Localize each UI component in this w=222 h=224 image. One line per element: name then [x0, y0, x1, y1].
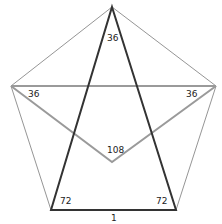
center-angle-label: 108	[107, 145, 124, 155]
left-angle-label: 36	[28, 89, 40, 99]
pentagon-diagram: 36 36 36 108 72 72 1	[0, 0, 222, 224]
base-length-label: 1	[111, 213, 117, 223]
bottom-left-angle-label: 72	[60, 196, 71, 206]
right-angle-label: 36	[186, 89, 198, 99]
bottom-right-angle-label: 72	[156, 196, 167, 206]
apex-angle-label: 36	[107, 33, 119, 43]
